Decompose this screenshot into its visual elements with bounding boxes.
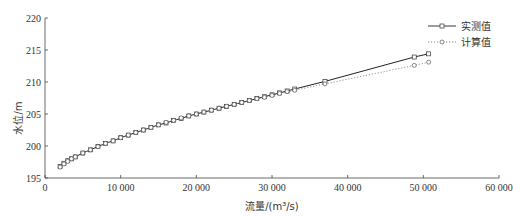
circle-marker [119, 136, 123, 140]
circle-marker [209, 108, 213, 112]
circle-marker [164, 120, 168, 124]
circle-marker [62, 162, 66, 166]
square-marker [427, 52, 431, 56]
x-tick-label: 10 000 [107, 182, 135, 193]
x-tick-label: 20 000 [183, 182, 211, 193]
circle-marker [270, 93, 274, 97]
x-tick-label: 50 000 [410, 182, 438, 193]
y-tick-label: 200 [26, 141, 41, 152]
circle-marker [66, 159, 70, 163]
circle-marker [232, 102, 236, 106]
circle-marker [58, 165, 62, 169]
legend-label: 计算值 [461, 36, 491, 48]
series-measured [58, 52, 430, 169]
circle-marker [255, 97, 259, 101]
circle-marker [323, 82, 327, 86]
legend-item-computed: 计算值 [428, 36, 491, 48]
series-line [60, 62, 429, 167]
circle-marker [126, 133, 130, 137]
y-tick-label: 205 [26, 109, 41, 120]
circle-marker [194, 112, 198, 116]
circle-marker [217, 106, 221, 110]
circle-marker [69, 157, 73, 161]
circle-marker [157, 123, 161, 127]
y-tick-label: 215 [26, 45, 41, 56]
circle-marker [73, 155, 77, 159]
circle-marker [278, 92, 282, 96]
circle-marker [134, 131, 138, 135]
y-tick-label: 220 [26, 13, 41, 24]
circle-marker [96, 145, 100, 149]
y-axis-title: 水位/m [12, 101, 24, 134]
circle-marker [172, 118, 176, 122]
legend-circle-marker [440, 40, 444, 44]
circle-marker [141, 128, 145, 132]
series-computed [58, 60, 430, 169]
circle-marker [285, 90, 289, 94]
rating-curve-chart: 195200205210215220010 00020 00030 00040 … [0, 0, 513, 216]
circle-marker [187, 114, 191, 118]
legend-square-marker [440, 24, 444, 28]
x-tick-label: 30 000 [258, 182, 286, 193]
circle-marker [240, 100, 244, 104]
circle-marker [81, 151, 85, 155]
circle-marker [225, 104, 229, 108]
legend-label: 实测值 [461, 20, 491, 32]
series-layer [58, 52, 430, 169]
square-marker [412, 55, 416, 59]
circle-marker [179, 116, 183, 120]
x-axis-title: 流量/(m³/s) [245, 200, 299, 212]
y-tick-label: 210 [26, 77, 41, 88]
legend: 实测值计算值 [428, 20, 491, 48]
circle-marker [104, 141, 108, 145]
circle-marker [412, 63, 416, 67]
x-tick-label: 60 000 [485, 182, 513, 193]
circle-marker [247, 99, 251, 103]
y-tick-label: 195 [26, 173, 41, 184]
series-line [60, 54, 429, 167]
circle-marker [111, 139, 115, 143]
circle-marker [427, 60, 431, 64]
x-tick-label: 0 [43, 182, 48, 193]
circle-marker [293, 88, 297, 92]
circle-marker [149, 125, 153, 129]
circle-marker [88, 148, 92, 152]
x-tick-label: 40 000 [334, 182, 362, 193]
legend-item-measured: 实测值 [428, 20, 491, 32]
circle-marker [262, 95, 266, 99]
circle-marker [202, 110, 206, 114]
